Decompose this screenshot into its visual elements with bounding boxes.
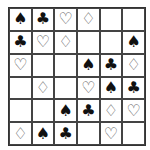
heart-icon: ♡ [36, 34, 50, 50]
grid-cell-r5-c6[interactable]: ♡ [122, 99, 145, 122]
grid-cell-r3-c1[interactable]: ♡ [9, 54, 32, 77]
grid-cell-r5-c2[interactable] [32, 99, 55, 122]
grid-cell-r4-c5[interactable]: ♠ [100, 77, 123, 100]
club-icon: ♣ [13, 34, 27, 50]
grid-cell-r1-c6[interactable] [122, 8, 145, 31]
grid-cell-r4-c3[interactable] [54, 77, 77, 100]
grid-cell-r5-c4[interactable]: ♣ [77, 99, 100, 122]
grid-cell-r4-c4[interactable]: ♡ [77, 77, 100, 100]
diamond-icon: ♢ [81, 11, 95, 27]
grid-cell-r1-c3[interactable]: ♡ [54, 8, 77, 31]
spade-icon: ♠ [81, 57, 95, 73]
diamond-icon: ♢ [126, 57, 140, 73]
grid-cell-r1-c5[interactable] [100, 8, 123, 31]
grid-cell-r6-c2[interactable]: ♠ [32, 122, 55, 145]
puzzle-grid: ♠♣♡♢♣♡♢♠♡♠♣♢♢♡♠♣♠♣♢♡♢♠♣♡ [8, 7, 146, 146]
grid-cell-r2-c2[interactable]: ♡ [32, 31, 55, 54]
spade-icon: ♠ [13, 11, 27, 27]
grid-cell-r4-c1[interactable] [9, 77, 32, 100]
grid-cell-r3-c5[interactable]: ♣ [100, 54, 123, 77]
heart-icon: ♡ [58, 11, 72, 27]
grid-cell-r5-c3[interactable]: ♠ [54, 99, 77, 122]
club-icon: ♣ [126, 80, 140, 96]
grid-cell-r1-c1[interactable]: ♠ [9, 8, 32, 31]
grid-cell-r3-c6[interactable]: ♢ [122, 54, 145, 77]
grid-cell-r3-c2[interactable] [32, 54, 55, 77]
grid-cell-r6-c5[interactable]: ♡ [100, 122, 123, 145]
grid-cell-r5-c1[interactable] [9, 99, 32, 122]
heart-icon: ♡ [81, 80, 95, 96]
heart-icon: ♡ [13, 57, 27, 73]
grid-cell-r3-c3[interactable] [54, 54, 77, 77]
club-icon: ♣ [36, 11, 50, 27]
grid-cell-r6-c6[interactable] [122, 122, 145, 145]
grid-cell-r2-c5[interactable] [100, 31, 123, 54]
grid-cell-r2-c1[interactable]: ♣ [9, 31, 32, 54]
heart-icon: ♡ [126, 103, 140, 119]
diamond-icon: ♢ [13, 126, 27, 142]
grid-cell-r1-c2[interactable]: ♣ [32, 8, 55, 31]
club-icon: ♣ [58, 126, 72, 142]
diamond-icon: ♢ [58, 34, 72, 50]
grid-cell-r2-c6[interactable]: ♠ [122, 31, 145, 54]
grid-cell-r4-c2[interactable]: ♢ [32, 77, 55, 100]
spade-icon: ♠ [104, 80, 118, 96]
grid-cell-r6-c4[interactable] [77, 122, 100, 145]
spade-icon: ♠ [126, 34, 140, 50]
diamond-icon: ♢ [36, 80, 50, 96]
heart-icon: ♡ [104, 126, 118, 142]
grid-cell-r1-c4[interactable]: ♢ [77, 8, 100, 31]
club-icon: ♣ [81, 103, 95, 119]
grid-cell-r2-c3[interactable]: ♢ [54, 31, 77, 54]
grid-cell-r3-c4[interactable]: ♠ [77, 54, 100, 77]
grid-cell-r5-c5[interactable]: ♢ [100, 99, 123, 122]
diamond-icon: ♢ [104, 103, 118, 119]
grid-cell-r4-c6[interactable]: ♣ [122, 77, 145, 100]
spade-icon: ♠ [36, 126, 50, 142]
grid-cell-r2-c4[interactable] [77, 31, 100, 54]
spade-icon: ♠ [58, 103, 72, 119]
grid-cell-r6-c1[interactable]: ♢ [9, 122, 32, 145]
club-icon: ♣ [104, 57, 118, 73]
grid-cell-r6-c3[interactable]: ♣ [54, 122, 77, 145]
